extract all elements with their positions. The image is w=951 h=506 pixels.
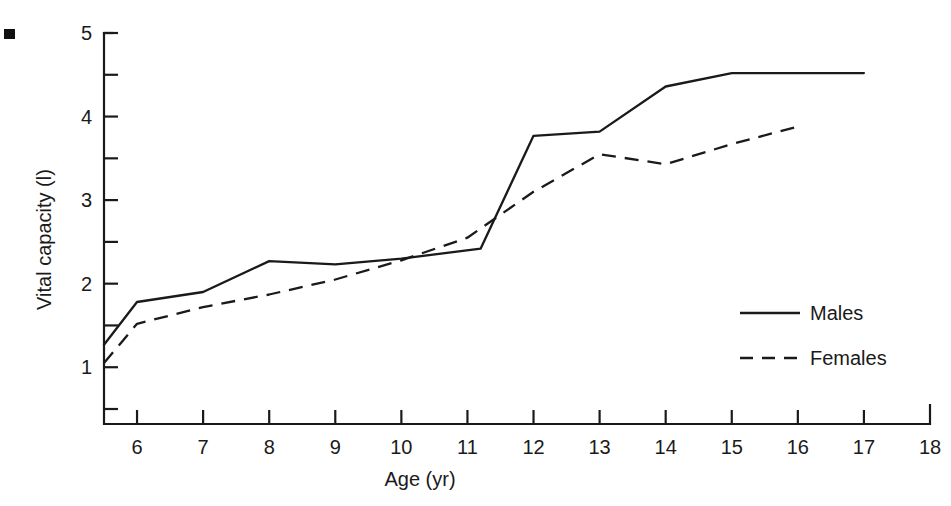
x-tick-label: 12 [522,437,544,457]
x-tick-label: 14 [655,437,677,457]
x-axis-title: Age (yr) [384,468,455,491]
y-axis-title: Vital capacity (l) [33,140,56,340]
x-tick-label: 8 [264,437,275,457]
legend-label-females: Females [810,347,887,370]
y-tick-label: 5 [60,23,92,43]
axis-frame [104,33,930,424]
x-tick-label: 7 [198,437,209,457]
x-tick-label: 6 [131,437,142,457]
legend-label-males: Males [810,302,863,325]
plot-area [0,0,951,506]
x-tick-label: 17 [853,437,875,457]
x-tick-label: 18 [919,437,941,457]
series-line-females [104,127,798,363]
x-tick-label: 16 [787,437,809,457]
y-tick-label: 2 [60,274,92,294]
x-tick-label: 13 [588,437,610,457]
x-axis-ticks [137,410,864,424]
x-tick-label: 10 [390,437,412,457]
y-tick-label: 3 [60,190,92,210]
x-tick-label: 11 [457,437,478,457]
x-tick-label: 15 [721,437,743,457]
series-line-males [104,73,864,345]
y-axis-ticks [104,33,118,409]
chart-figure: Males Females Vital capacity (l) Age (yr… [0,0,951,506]
y-tick-label: 1 [60,357,92,377]
y-tick-label: 4 [60,107,92,127]
x-tick-label: 9 [330,437,341,457]
